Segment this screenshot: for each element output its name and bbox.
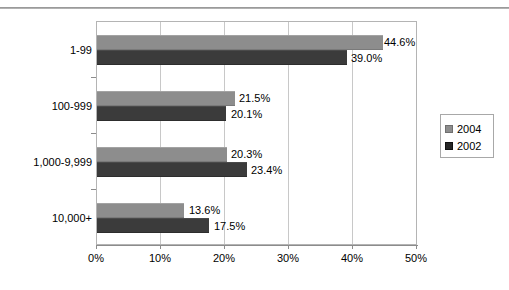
x-axis-label-30: 30% [258,252,318,264]
legend-item-2004[interactable]: 2004 [445,121,481,136]
y-axis-tick-1 [91,133,96,134]
x-axis-label-20: 20% [194,252,254,264]
bar-2002-1000-9999[interactable] [97,162,247,177]
chart-legend: 2004 2002 [440,114,494,158]
bar-2004-10000plus[interactable] [97,203,184,218]
bar-label-2004-100-999: 21.5% [239,92,270,104]
bar-label-2002-100-999: 20.1% [231,108,262,120]
bar-label-2004-10000plus: 13.6% [189,204,220,216]
x-axis-tick-30 [288,245,289,249]
x-axis-tick-10 [160,245,161,249]
x-axis-label-0: 0% [66,252,126,264]
x-axis-line [96,245,418,246]
x-axis-tick-50 [416,245,417,249]
legend-swatch-2004-icon [445,125,453,133]
legend-label-2002: 2002 [457,140,481,152]
bar-2004-100-999[interactable] [97,91,235,106]
legend-label-2004: 2004 [457,123,481,135]
bar-2004-1000-9999[interactable] [97,147,227,162]
category-label-1000-9999: 1,000-9,999 [2,156,92,168]
x-axis-label-10: 10% [130,252,190,264]
bar-label-2004-1-99: 44.6% [384,36,415,48]
bar-2002-1-99[interactable] [97,50,347,65]
x-axis-label-40: 40% [322,252,382,264]
bar-label-2002-1000-9999: 23.4% [251,164,282,176]
bar-2002-10000plus[interactable] [97,218,209,233]
bar-2002-100-999[interactable] [97,106,226,121]
category-label-10000plus: 10,000+ [2,212,92,224]
x-axis-tick-20 [224,245,225,249]
category-label-100-999: 100-999 [2,100,92,112]
bar-label-2002-10000plus: 17.5% [214,220,245,232]
bar-2004-1-99[interactable] [97,35,383,50]
y-axis-tick-2 [91,189,96,190]
y-axis-tick-0 [91,77,96,78]
category-label-1-99: 1-99 [2,44,92,56]
bar-label-2004-1000-9999: 20.3% [231,148,262,160]
legend-swatch-2002-icon [445,142,453,150]
legend-item-2002[interactable]: 2002 [445,138,481,153]
bar-chart: 1-99 100-999 1,000-9,999 10,000+ 44.6% 3… [0,0,509,290]
x-axis-tick-0 [96,245,97,249]
x-axis-tick-40 [352,245,353,249]
x-axis-label-50: 50% [386,252,446,264]
bar-label-2002-1-99: 39.0% [351,52,382,64]
